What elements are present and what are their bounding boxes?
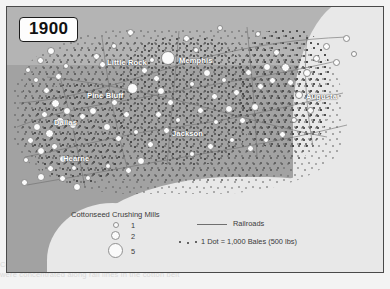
city-label-pine-bluff: Pine Bluff	[87, 91, 123, 100]
mill-circle[interactable]	[89, 107, 97, 115]
mill-circle[interactable]	[133, 129, 139, 135]
mill-circle[interactable]	[197, 107, 204, 114]
mill-circle[interactable]	[51, 99, 60, 108]
mill-circle[interactable]	[323, 43, 330, 50]
mill-circle[interactable]	[47, 165, 54, 172]
mill-circle[interactable]	[211, 93, 218, 100]
mill-circle[interactable]	[41, 111, 48, 118]
mill-circle[interactable]	[149, 57, 155, 63]
mill-circle[interactable]	[255, 31, 261, 37]
mill-circle[interactable]	[141, 67, 148, 74]
legend-symbol-5	[108, 243, 123, 258]
mill-circle[interactable]	[247, 145, 254, 152]
mill-circle[interactable]	[217, 25, 223, 31]
mill-circle[interactable]	[37, 173, 45, 181]
mill-circle[interactable]	[239, 117, 246, 124]
mill-circle[interactable]	[127, 29, 134, 36]
mill-circle[interactable]	[251, 103, 259, 111]
mill-circle[interactable]	[351, 51, 357, 57]
mill-circle-memphis[interactable]	[161, 51, 175, 65]
mill-circle[interactable]	[189, 81, 195, 87]
legend-cotton-dot	[195, 241, 197, 243]
mill-circle[interactable]	[263, 137, 269, 143]
mill-circle[interactable]	[123, 111, 130, 118]
mill-circle[interactable]	[207, 143, 214, 150]
mill-circle[interactable]	[225, 105, 233, 113]
map-canvas[interactable]: Little Rock Memphis Pine Bluff Dallas Ja…	[6, 6, 384, 273]
mill-circle[interactable]	[25, 67, 31, 73]
mill-circle[interactable]	[303, 69, 311, 77]
mill-circle[interactable]	[125, 167, 132, 174]
mill-circle[interactable]	[55, 73, 62, 80]
mill-circle[interactable]	[155, 111, 162, 118]
mill-circle[interactable]	[105, 163, 111, 169]
mill-circle[interactable]	[167, 99, 174, 106]
mill-circle[interactable]	[257, 83, 264, 90]
mill-circle[interactable]	[189, 151, 195, 157]
mill-circle[interactable]	[307, 107, 314, 114]
mill-circle[interactable]	[111, 99, 118, 106]
mill-circle[interactable]	[71, 165, 77, 171]
mill-circle-augusta[interactable]	[295, 91, 303, 99]
legend-label-2: 2	[131, 232, 135, 241]
legend-label-1: 1	[131, 221, 135, 230]
year-badge: 1900	[19, 17, 78, 42]
legend-symbol-2	[111, 231, 120, 240]
mill-circle[interactable]	[47, 47, 55, 55]
mill-circle[interactable]	[23, 157, 29, 163]
legend-cotton-dot	[187, 242, 189, 244]
mill-circle[interactable]	[333, 59, 340, 66]
mill-circle[interactable]	[287, 79, 294, 86]
legend-label-5: 5	[131, 247, 135, 256]
mill-circle-jackson[interactable]	[163, 127, 170, 134]
mill-circle[interactable]	[157, 87, 165, 95]
mill-circle[interactable]	[175, 117, 181, 123]
mill-circle[interactable]	[203, 69, 211, 77]
mill-circle[interactable]	[229, 137, 235, 143]
mill-circle[interactable]	[281, 63, 290, 72]
mill-circle[interactable]	[263, 63, 271, 71]
mill-circle-pine-bluff[interactable]	[127, 83, 138, 94]
mill-circle[interactable]	[291, 117, 297, 123]
mill-circle[interactable]	[233, 89, 240, 96]
mill-circle[interactable]	[63, 107, 71, 115]
mill-circle[interactable]	[43, 87, 50, 94]
city-label-little-rock: Little Rock	[107, 58, 147, 67]
mill-circle[interactable]	[153, 75, 160, 82]
mill-circle-little-rock[interactable]	[99, 61, 106, 68]
mill-circle[interactable]	[33, 77, 39, 83]
mill-circle[interactable]	[221, 77, 227, 83]
legend-symbol-1	[113, 222, 119, 228]
mill-circle[interactable]	[79, 113, 86, 120]
mill-circle[interactable]	[111, 43, 117, 49]
mill-circle[interactable]	[37, 147, 45, 155]
mill-circle[interactable]	[37, 57, 44, 64]
mill-circle[interactable]	[59, 175, 66, 182]
mill-circle[interactable]	[73, 183, 81, 191]
mill-circle[interactable]	[183, 35, 190, 42]
mill-circle[interactable]	[273, 49, 280, 56]
mill-circle[interactable]	[245, 69, 252, 76]
figure-root: Cottonseed crushing mills, location, and…	[0, 0, 390, 289]
mill-circle[interactable]	[27, 137, 34, 144]
mill-circle[interactable]	[213, 119, 219, 125]
mill-circle[interactable]	[85, 175, 91, 181]
mill-circle[interactable]	[313, 55, 320, 62]
mill-circle[interactable]	[137, 157, 145, 165]
mill-circle[interactable]	[45, 129, 54, 138]
mill-circle[interactable]	[343, 35, 350, 42]
mill-circle[interactable]	[63, 63, 69, 69]
legend-label-railroads: Railroads	[233, 219, 264, 228]
mill-circle[interactable]	[147, 141, 154, 148]
mill-circle[interactable]	[115, 135, 122, 142]
mill-circle[interactable]	[51, 143, 58, 150]
city-label-jackson: Jackson	[172, 129, 203, 138]
mill-circle[interactable]	[269, 77, 276, 84]
mill-circle[interactable]	[103, 123, 111, 131]
mill-circle[interactable]	[193, 47, 199, 53]
mill-circle[interactable]	[33, 123, 41, 131]
mill-circle[interactable]	[279, 131, 286, 138]
mill-circle[interactable]	[21, 179, 28, 186]
mill-circle[interactable]	[93, 53, 100, 60]
legend-cotton-dot	[179, 241, 181, 243]
